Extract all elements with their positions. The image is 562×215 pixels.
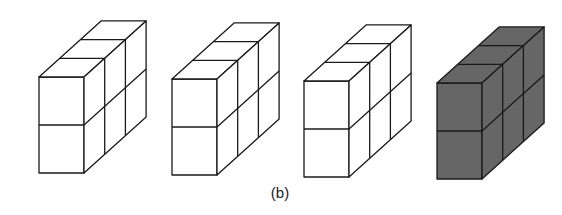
block-3 — [304, 25, 411, 177]
figure-caption: (b) — [0, 184, 562, 201]
block-1 — [39, 21, 146, 173]
caption-label: (b) — [271, 184, 289, 201]
block-figure — [0, 0, 562, 215]
block-2 — [172, 23, 279, 175]
block-4 — [437, 27, 544, 179]
